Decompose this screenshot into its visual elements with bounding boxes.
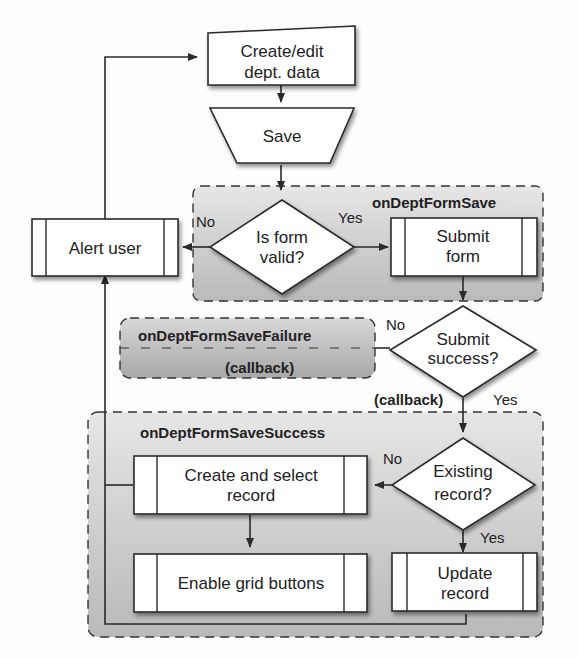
node-create-edit-line2: dept. data bbox=[244, 63, 320, 82]
group-title-success: onDeptFormSaveSuccess bbox=[140, 424, 325, 441]
group-subtitle-failure: (callback) bbox=[225, 359, 294, 376]
edge-label-existing-yes: Yes bbox=[480, 529, 504, 546]
node-create-select-line2: record bbox=[227, 486, 275, 505]
node-is-valid-line1: Is form bbox=[256, 228, 308, 247]
node-save-label: Save bbox=[263, 127, 302, 146]
edge-label-valid-yes: Yes bbox=[338, 209, 362, 226]
node-existing-line2: record? bbox=[434, 485, 492, 504]
group-on-dept-form-save-failure: onDeptFormSaveFailure (callback) bbox=[120, 318, 375, 378]
edge-label-success-yes: Yes bbox=[493, 391, 517, 408]
node-is-valid-line2: valid? bbox=[260, 248, 304, 267]
node-submit-form-line1: Submit bbox=[437, 227, 490, 246]
node-existing-line1: Existing bbox=[433, 462, 493, 481]
node-update-line2: record bbox=[441, 584, 489, 603]
group-title-save: onDeptFormSave bbox=[372, 194, 496, 211]
edge-label-valid-no: No bbox=[196, 213, 215, 230]
node-alert-user-label: Alert user bbox=[69, 239, 142, 258]
edge-alert-to-create bbox=[105, 57, 197, 220]
node-enable-grid-label: Enable grid buttons bbox=[178, 574, 325, 593]
node-submit-success-line2: success? bbox=[428, 349, 499, 368]
edge-label-success-no: No bbox=[386, 316, 405, 333]
node-update-line1: Update bbox=[438, 564, 493, 583]
edge-label-success-callback: (callback) bbox=[374, 391, 443, 408]
flowchart-canvas: onDeptFormSave onDeptFormSaveFailure (ca… bbox=[0, 0, 578, 658]
edge-label-existing-no: No bbox=[383, 450, 402, 467]
node-submit-success-line1: Submit bbox=[437, 330, 490, 349]
node-submit-form-line2: form bbox=[446, 247, 480, 266]
group-title-failure: onDeptFormSaveFailure bbox=[138, 327, 311, 344]
node-create-select-line1: Create and select bbox=[184, 466, 318, 485]
node-create-select-record bbox=[134, 456, 367, 514]
node-create-edit-line1: Create/edit bbox=[240, 42, 323, 61]
